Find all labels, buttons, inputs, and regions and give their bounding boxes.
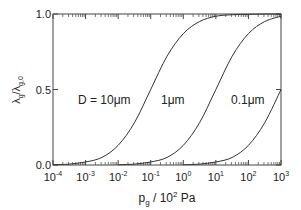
series-label: D = 10μm xyxy=(78,93,131,107)
x-tick-label: 101 xyxy=(208,170,224,183)
y-tick-labels: 0.00.51.0 xyxy=(36,8,51,171)
series-label: 0.1μm xyxy=(231,93,265,107)
axis-ticks xyxy=(53,14,281,165)
x-axis-label: pg / 102 Pa xyxy=(139,190,196,207)
series-line-0 xyxy=(53,14,281,165)
series-labels: D = 10μm1μm0.1μm xyxy=(78,93,265,107)
x-tick-label: 100 xyxy=(175,170,191,183)
x-tick-label: 103 xyxy=(273,170,289,183)
x-tick-label: 10-3 xyxy=(76,170,95,183)
y-tick-label: 1.0 xyxy=(36,8,51,20)
series-label: 1μm xyxy=(161,93,185,107)
x-tick-labels: 10-410-310-210-1100101102103 xyxy=(44,170,289,183)
x-tick-label: 102 xyxy=(240,170,256,183)
y-tick-label: 0.0 xyxy=(36,159,51,171)
curves xyxy=(53,14,281,165)
chart: 10-410-310-210-1100101102103 0.00.51.0 D… xyxy=(0,0,301,210)
x-tick-label: 10-1 xyxy=(141,170,160,183)
series-line-1 xyxy=(118,16,281,164)
plot-frame xyxy=(53,14,281,165)
y-axis-label: λg/λg,0 xyxy=(10,76,25,104)
x-tick-label: 10-2 xyxy=(109,170,128,183)
x-tick-label: 10-4 xyxy=(44,170,63,183)
y-tick-label: 0.5 xyxy=(36,84,51,96)
